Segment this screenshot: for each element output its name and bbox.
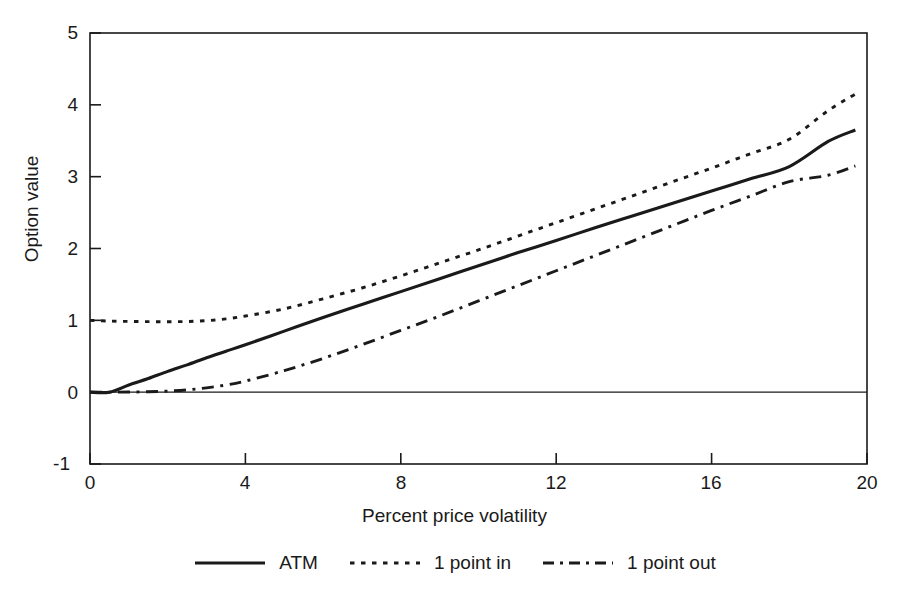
ytick-label-neg1: -1 <box>30 453 70 475</box>
ytick-label-0: 0 <box>38 382 78 404</box>
plot-area: 5 4 3 2 1 0 -1 0 4 8 12 16 20 Option val… <box>0 0 909 606</box>
xtick-label-8: 8 <box>381 472 421 494</box>
legend-item-atm: ATM <box>193 552 318 574</box>
legend-label-1-point-out: 1 point out <box>627 552 716 574</box>
y-axis-title: Option value <box>21 99 43 319</box>
series-line-atm <box>90 130 855 393</box>
x-axis-title: Percent price volatility <box>0 505 909 527</box>
xtick-label-16: 16 <box>691 472 731 494</box>
ytick-label-3: 3 <box>38 166 78 188</box>
chart-legend: ATM 1 point in 1 point out <box>0 552 909 574</box>
xtick-label-4: 4 <box>225 472 265 494</box>
series-line-1-point-in <box>90 94 855 322</box>
legend-line-dashdot-icon <box>541 556 615 570</box>
xtick-label-0: 0 <box>70 472 110 494</box>
ytick-label-2: 2 <box>38 238 78 260</box>
legend-label-atm: ATM <box>279 552 318 574</box>
xtick-label-20: 20 <box>847 472 887 494</box>
legend-line-dotted-icon <box>348 556 422 570</box>
xtick-label-12: 12 <box>536 472 576 494</box>
legend-label-1-point-in: 1 point in <box>434 552 511 574</box>
legend-item-1-point-in: 1 point in <box>348 552 511 574</box>
ytick-label-1: 1 <box>38 310 78 332</box>
legend-item-1-point-out: 1 point out <box>541 552 716 574</box>
legend-line-solid-icon <box>193 556 267 570</box>
chart-figure: 5 4 3 2 1 0 -1 0 4 8 12 16 20 Option val… <box>0 0 909 606</box>
ytick-label-4: 4 <box>38 94 78 116</box>
ytick-label-5: 5 <box>38 22 78 44</box>
